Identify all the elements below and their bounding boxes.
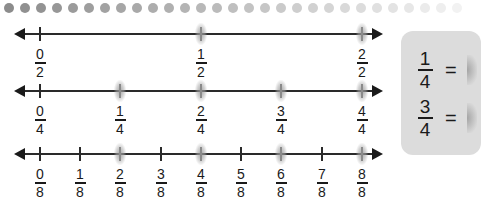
denominator: 8 xyxy=(70,185,90,199)
tick-label-fraction: 44 xyxy=(352,104,372,136)
tick-label-fraction: 48 xyxy=(191,167,211,199)
tick-mark xyxy=(200,84,202,98)
tick-label-fraction: 28 xyxy=(110,167,130,199)
decorative-dot xyxy=(212,3,222,13)
numerator: 0 xyxy=(30,104,50,118)
numerator: 5 xyxy=(231,167,251,181)
tick-label-fraction: 78 xyxy=(312,167,332,199)
tick-mark xyxy=(200,27,202,41)
tick-label-fraction: 68 xyxy=(271,167,291,199)
decorative-dot xyxy=(436,3,446,13)
decorative-dot xyxy=(180,3,190,13)
numerator: 0 xyxy=(30,47,50,61)
arrow-right-icon xyxy=(372,148,383,160)
decorative-dot xyxy=(372,3,382,13)
numerator: 7 xyxy=(312,167,332,181)
tick-mark xyxy=(39,27,41,41)
tick-mark xyxy=(119,84,121,98)
denominator: 4 xyxy=(191,122,211,136)
decorative-dot xyxy=(292,3,302,13)
denominator: 8 xyxy=(231,185,251,199)
decorative-dot xyxy=(4,3,14,13)
numerator: 8 xyxy=(352,167,372,181)
equals-sign: = xyxy=(445,107,457,130)
tick-mark xyxy=(321,147,323,161)
numerator: 1 xyxy=(110,104,130,118)
numerator: 2 xyxy=(191,104,211,118)
decorative-dot xyxy=(452,3,462,13)
equation-1-quarter: 1 4 = xyxy=(417,49,477,91)
tick-mark xyxy=(79,147,81,161)
arrow-left-icon xyxy=(14,85,25,97)
tick-mark xyxy=(361,27,363,41)
numerator: 4 xyxy=(191,167,211,181)
decorative-dot xyxy=(52,3,62,13)
fraction-one-quarter: 1 4 xyxy=(417,49,433,91)
denominator: 2 xyxy=(30,65,50,79)
tick-label-fraction: 88 xyxy=(352,167,372,199)
denominator: 8 xyxy=(352,185,372,199)
tick-mark xyxy=(39,84,41,98)
tick-label-fraction: 02 xyxy=(30,47,50,79)
tick-mark xyxy=(280,147,282,161)
decorative-dot xyxy=(308,3,318,13)
denominator: 4 xyxy=(30,122,50,136)
denominator: 8 xyxy=(151,185,171,199)
arrow-right-icon xyxy=(372,28,383,40)
tick-mark xyxy=(361,147,363,161)
arrow-right-icon xyxy=(372,85,383,97)
decorative-dot xyxy=(276,3,286,13)
number-line-halves: 021222 xyxy=(0,33,400,83)
tick-label-fraction: 14 xyxy=(110,104,130,136)
decorative-dot xyxy=(260,3,270,13)
arrow-left-icon xyxy=(14,28,25,40)
denominator: 4 xyxy=(420,71,431,92)
decorative-dot-row xyxy=(0,3,462,15)
decorative-dot xyxy=(100,3,110,13)
tick-label-fraction: 22 xyxy=(352,47,372,79)
numerator: 2 xyxy=(352,47,372,61)
denominator: 2 xyxy=(352,65,372,79)
answer-blank xyxy=(467,55,477,85)
denominator: 8 xyxy=(312,185,332,199)
numerator: 2 xyxy=(110,167,130,181)
denominator: 4 xyxy=(110,122,130,136)
numerator: 3 xyxy=(420,96,431,117)
numerator: 3 xyxy=(271,104,291,118)
decorative-dot xyxy=(132,3,142,13)
numerator: 6 xyxy=(271,167,291,181)
decorative-dot xyxy=(340,3,350,13)
decorative-dot xyxy=(68,3,78,13)
number-line-quarters: 0414243444 xyxy=(0,90,400,140)
equivalence-panel: 1 4 = 3 4 = xyxy=(401,31,481,155)
tick-label-fraction: 18 xyxy=(70,167,90,199)
equation-3-quarters: 3 4 = xyxy=(417,97,477,139)
numerator: 3 xyxy=(151,167,171,181)
denominator: 8 xyxy=(271,185,291,199)
decorative-dot xyxy=(388,3,398,13)
answer-blank xyxy=(467,103,477,133)
tick-label-fraction: 24 xyxy=(191,104,211,136)
tick-label-fraction: 38 xyxy=(151,167,171,199)
decorative-dot xyxy=(196,3,206,13)
decorative-dot xyxy=(36,3,46,13)
numerator: 4 xyxy=(352,104,372,118)
tick-mark xyxy=(119,147,121,161)
fraction-three-quarters: 3 4 xyxy=(417,97,433,139)
numerator: 1 xyxy=(191,47,211,61)
numerator: 1 xyxy=(420,48,431,69)
decorative-dot xyxy=(84,3,94,13)
arrow-left-icon xyxy=(14,148,25,160)
decorative-dot xyxy=(404,3,414,13)
denominator: 4 xyxy=(271,122,291,136)
tick-mark xyxy=(280,84,282,98)
decorative-dot xyxy=(420,3,430,13)
decorative-dot xyxy=(164,3,174,13)
tick-mark xyxy=(200,147,202,161)
decorative-dot xyxy=(148,3,158,13)
tick-label-fraction: 12 xyxy=(191,47,211,79)
denominator: 2 xyxy=(191,65,211,79)
tick-mark xyxy=(240,147,242,161)
numerator: 0 xyxy=(30,167,50,181)
denominator: 4 xyxy=(352,122,372,136)
